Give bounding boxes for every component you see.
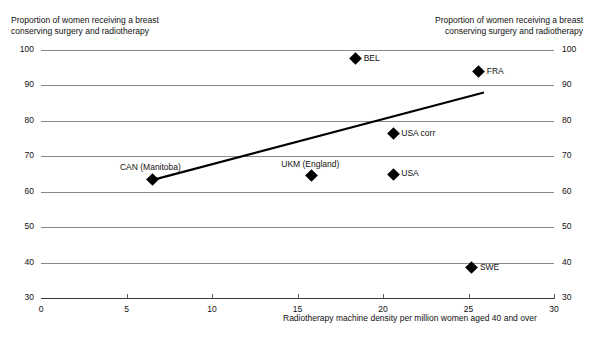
x-tick-label: 0 bbox=[26, 304, 56, 314]
data-point-label: CAN (Manitoba) bbox=[120, 162, 181, 172]
x-tick-mark bbox=[298, 294, 299, 299]
data-point-label: SWE bbox=[480, 262, 499, 272]
y-tick-label-left: 80 bbox=[10, 115, 34, 125]
data-point-label: UKM (England) bbox=[281, 159, 339, 169]
x-tick-mark bbox=[469, 294, 470, 299]
y-tick-label-right: 40 bbox=[562, 257, 586, 267]
y-tick-label-left: 30 bbox=[10, 292, 34, 302]
y-tick-label-right: 50 bbox=[562, 221, 586, 231]
x-tick-label: 5 bbox=[112, 304, 142, 314]
gridline bbox=[41, 50, 554, 51]
data-point-label: USA corr bbox=[401, 128, 435, 138]
y-tick-label-left: 100 bbox=[10, 44, 34, 54]
y-tick-label-right: 90 bbox=[562, 79, 586, 89]
x-tick-mark bbox=[127, 294, 128, 299]
y-tick-label-left: 50 bbox=[10, 221, 34, 231]
y-tick-label-left: 70 bbox=[10, 150, 34, 160]
x-axis-title: Radiotherapy machine density per million… bbox=[283, 313, 537, 323]
y-tick-label-left: 90 bbox=[10, 79, 34, 89]
y-tick-label-left: 40 bbox=[10, 257, 34, 267]
data-point-marker[interactable] bbox=[349, 52, 362, 65]
gridline bbox=[41, 192, 554, 193]
y-tick-label-right: 80 bbox=[562, 115, 586, 125]
y-tick-label-right: 30 bbox=[562, 292, 586, 302]
y-axis-title-left: Proportion of women receiving a breast c… bbox=[11, 15, 159, 36]
data-point-marker[interactable] bbox=[387, 128, 400, 141]
gridline bbox=[41, 156, 554, 157]
data-point-label: BEL bbox=[364, 53, 380, 63]
trendline-svg bbox=[0, 0, 597, 340]
x-tick-label: 30 bbox=[539, 304, 569, 314]
x-tick-mark bbox=[212, 294, 213, 299]
data-point-label: USA bbox=[401, 168, 418, 178]
data-point-marker[interactable] bbox=[387, 168, 400, 181]
x-tick-mark bbox=[554, 294, 555, 299]
y-tick-label-right: 60 bbox=[562, 186, 586, 196]
data-point-marker[interactable] bbox=[305, 169, 318, 182]
chart-container: Proportion of women receiving a breast c… bbox=[0, 0, 597, 340]
gridline bbox=[41, 85, 554, 86]
y-axis-title-right: Proportion of women receiving a breast c… bbox=[435, 15, 583, 36]
x-tick-mark bbox=[383, 294, 384, 299]
gridline bbox=[41, 263, 554, 264]
gridline bbox=[41, 121, 554, 122]
data-point-marker[interactable] bbox=[146, 173, 159, 186]
x-tick-label: 10 bbox=[197, 304, 227, 314]
gridline bbox=[41, 227, 554, 228]
y-tick-label-right: 100 bbox=[562, 44, 586, 54]
y-tick-label-left: 60 bbox=[10, 186, 34, 196]
y-tick-label-right: 70 bbox=[562, 150, 586, 160]
data-point-label: FRA bbox=[487, 66, 504, 76]
data-point-marker[interactable] bbox=[472, 66, 485, 79]
